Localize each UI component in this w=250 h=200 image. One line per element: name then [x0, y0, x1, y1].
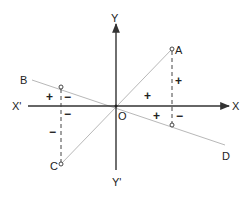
x-positive-label: X	[232, 100, 240, 112]
point-b-label: B	[20, 74, 27, 86]
point-bd-right-marker	[170, 123, 174, 127]
sign-right-minus-below-axis: −	[176, 109, 183, 123]
point-d-label: D	[222, 150, 230, 162]
point-a-marker	[170, 47, 174, 51]
x-negative-label: X'	[12, 100, 21, 112]
point-c-marker	[59, 162, 63, 166]
origin-dot	[115, 105, 118, 108]
point-bd-left-marker	[59, 85, 63, 89]
origin-label: O	[118, 110, 127, 122]
sign-right-plus-below-axis: +	[153, 109, 160, 123]
point-c-label: C	[50, 160, 58, 172]
sign-left-lower-minus-axis: −	[64, 107, 71, 121]
point-a-label: A	[175, 44, 183, 56]
sign-right-plus-vertical: +	[175, 74, 182, 88]
y-negative-label: Y'	[112, 176, 121, 188]
sign-left-lower-minus: −	[49, 125, 56, 139]
coordinate-diagram: Y Y' X X' O A B C D + − − − + + + −	[0, 0, 250, 200]
sign-left-upper-plus: +	[46, 90, 53, 104]
sign-center-plus: +	[144, 89, 151, 103]
sign-left-upper-minus: −	[64, 90, 71, 104]
y-positive-label: Y	[111, 12, 119, 24]
